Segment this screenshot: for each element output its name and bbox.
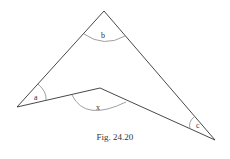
angle-arcs [38, 34, 194, 129]
label-a: a [34, 93, 38, 102]
label-c: c [196, 121, 200, 130]
arc-c [190, 117, 195, 129]
arc-a [38, 84, 46, 100]
edge-left-inner [17, 88, 100, 107]
figure-caption: Fig. 24.20 [0, 132, 230, 142]
label-x: x [96, 103, 100, 112]
outline [17, 11, 215, 140]
label-b: b [101, 31, 105, 40]
edge-left-top [17, 11, 104, 107]
